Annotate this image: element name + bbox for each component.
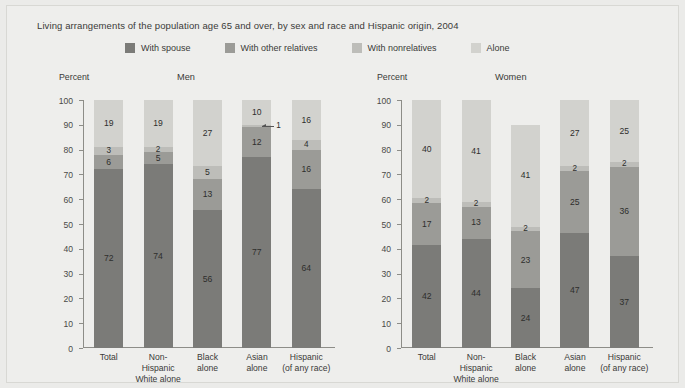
y-axis-tick-label: 60 bbox=[381, 195, 391, 205]
bar-segment[interactable]: 19 bbox=[144, 100, 173, 147]
bar-segment-value: 10 bbox=[252, 108, 262, 117]
bar-segment[interactable]: 77 bbox=[242, 157, 271, 348]
category-line-1: Asian bbox=[550, 352, 599, 363]
category-line-1: Hispanic bbox=[600, 352, 649, 363]
bar-segment-value: 16 bbox=[301, 116, 311, 125]
y-axis-title: Percent bbox=[59, 72, 89, 82]
bar-segment[interactable]: 12 bbox=[242, 127, 271, 157]
y-axis-tick-label: 100 bbox=[377, 96, 391, 106]
legend-label: Alone bbox=[487, 43, 510, 53]
bar-segment[interactable]: 3 bbox=[94, 147, 123, 154]
stacked-bar[interactable]: 192574 bbox=[144, 100, 173, 348]
stacked-bar[interactable]: 2751356 bbox=[193, 100, 222, 348]
y-axis-tick: 100 bbox=[79, 100, 83, 101]
bar-segment[interactable]: 27 bbox=[193, 100, 222, 166]
bar-segment-value: 25 bbox=[619, 127, 629, 136]
bar-segment-value: 44 bbox=[471, 289, 481, 298]
bar-segment[interactable]: 27 bbox=[560, 100, 589, 166]
bar-segment[interactable]: 72 bbox=[94, 169, 123, 348]
legend-swatch-icon bbox=[125, 43, 135, 53]
bar-segment[interactable]: 25 bbox=[610, 100, 639, 162]
bar-segment[interactable]: 5 bbox=[193, 166, 222, 178]
y-axis-tick: 70 bbox=[79, 174, 83, 175]
bar-segment[interactable]: 19 bbox=[94, 100, 123, 147]
bar-segment[interactable]: 74 bbox=[144, 164, 173, 348]
stacked-bar[interactable]: 193672 bbox=[94, 100, 123, 348]
bar-segment[interactable]: 40 bbox=[412, 100, 441, 198]
category-line-1: Black bbox=[183, 352, 232, 363]
stacked-bar[interactable]: 4122324 bbox=[511, 100, 540, 348]
bar-segment[interactable]: 36 bbox=[610, 167, 639, 256]
category-line-1: Hispanic bbox=[282, 352, 331, 363]
y-axis-tick-label: 70 bbox=[63, 170, 73, 180]
legend-item: With nonrelatives bbox=[352, 43, 437, 53]
bar-segment[interactable]: 24 bbox=[511, 288, 540, 348]
bar-segment[interactable]: 10 bbox=[242, 100, 271, 125]
bar-segment[interactable]: 5 bbox=[144, 152, 173, 164]
stacked-bar[interactable]: 2523637 bbox=[610, 100, 639, 348]
stacked-bar[interactable]: 1641664 bbox=[292, 100, 321, 348]
bar-segment[interactable]: 44 bbox=[462, 239, 491, 348]
category-line-1: Non-Hispanic bbox=[451, 352, 500, 374]
category-line-1: Black bbox=[501, 352, 550, 363]
x-axis-category-label: Hispanic(of any race) bbox=[600, 352, 649, 385]
bar-segment[interactable]: 41 bbox=[462, 100, 491, 202]
x-axis-category-label: Asianalone bbox=[550, 352, 599, 385]
bar-segment-value: 24 bbox=[521, 314, 531, 323]
category-line-2: (of any race) bbox=[600, 363, 649, 374]
bar-segment[interactable]: 47 bbox=[560, 233, 589, 348]
category-line-1: Total bbox=[402, 352, 451, 363]
y-axis-tick: 10 bbox=[79, 323, 83, 324]
bar-segment[interactable]: 23 bbox=[511, 231, 540, 288]
y-axis-tick-label: 10 bbox=[381, 319, 391, 329]
y-axis-tick-label: 80 bbox=[381, 145, 391, 155]
y-axis-tick: 80 bbox=[79, 150, 83, 151]
stacked-bar[interactable]: 1011277 bbox=[242, 100, 271, 348]
category-line-2: White alone bbox=[451, 374, 500, 385]
bar-segment-value: 4 bbox=[304, 141, 309, 149]
bar-segment-value: 13 bbox=[203, 190, 213, 199]
y-axis-tick: 30 bbox=[79, 274, 83, 275]
bar-segment[interactable]: 16 bbox=[292, 150, 321, 190]
y-axis-tick: 70 bbox=[397, 174, 401, 175]
x-axis-category-label: Blackalone bbox=[501, 352, 550, 385]
stacked-bar[interactable]: 4021742 bbox=[412, 100, 441, 348]
stacked-bar[interactable]: 2722547 bbox=[560, 100, 589, 348]
bar-segment[interactable]: 37 bbox=[610, 256, 639, 348]
y-axis-tick-label: 100 bbox=[59, 96, 73, 106]
y-axis-tick-label: 30 bbox=[63, 269, 73, 279]
bar-segment[interactable]: 41 bbox=[511, 125, 540, 227]
panel-men: Percent Men 1009080706050403020100 19367… bbox=[37, 72, 342, 372]
bar-segment[interactable]: 56 bbox=[193, 210, 222, 348]
bar-segment-value: 77 bbox=[252, 248, 262, 257]
y-axis-tick-label: 30 bbox=[381, 269, 391, 279]
bar-segment[interactable]: 16 bbox=[292, 100, 321, 140]
bar-segment[interactable]: 64 bbox=[292, 189, 321, 348]
y-axis-tick-label: 90 bbox=[63, 120, 73, 130]
bar-segment[interactable]: 6 bbox=[94, 155, 123, 170]
bar-segment-value: 19 bbox=[104, 119, 114, 128]
legend-swatch-icon bbox=[225, 43, 235, 53]
bar-segment-value: 64 bbox=[301, 264, 311, 273]
bar-segment[interactable]: 25 bbox=[560, 171, 589, 232]
bar-segment[interactable]: 13 bbox=[462, 207, 491, 239]
stacked-bar[interactable]: 4121344 bbox=[462, 100, 491, 348]
plot-area-women: 1009080706050403020100 40217424121344412… bbox=[401, 100, 653, 348]
x-axis-category-label: Non-HispanicWhite alone bbox=[451, 352, 500, 385]
legend-item: With other relatives bbox=[225, 43, 318, 53]
y-axis-tick: 20 bbox=[79, 298, 83, 299]
x-axis-category-label: Hispanic(of any race) bbox=[282, 352, 331, 385]
bar-segment-value: 25 bbox=[570, 198, 580, 207]
bar-segment[interactable]: 42 bbox=[412, 245, 441, 348]
x-axis-category-label: Total bbox=[84, 352, 133, 385]
bar-segment-value: 16 bbox=[301, 165, 311, 174]
legend-item: Alone bbox=[471, 43, 510, 53]
bar-segment-value: 56 bbox=[203, 275, 213, 284]
bar-segment[interactable]: 17 bbox=[412, 203, 441, 245]
bar-segment-value: 13 bbox=[471, 218, 481, 227]
legend-item: With spouse bbox=[125, 43, 191, 53]
bar-segment[interactable]: 13 bbox=[193, 179, 222, 211]
x-axis-category-label: Blackalone bbox=[183, 352, 232, 385]
category-line-2: alone bbox=[183, 363, 232, 374]
bar-segment[interactable]: 4 bbox=[292, 140, 321, 150]
